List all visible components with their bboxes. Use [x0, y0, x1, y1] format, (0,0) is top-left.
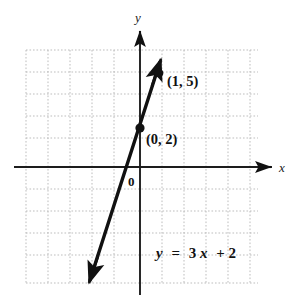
graph-figure: (1, 5) (0, 2) 0 y x y = 3 x + 2	[0, 0, 296, 301]
equation-equals: =	[171, 245, 180, 261]
point-label-1-5: (1, 5)	[167, 73, 199, 90]
data-point-0-2	[135, 123, 144, 132]
equation-label: y = 3 x + 2	[154, 245, 236, 261]
point-label-0-2: (0, 2)	[146, 131, 178, 148]
coordinate-plane-svg: (1, 5) (0, 2) 0 y x y = 3 x + 2	[0, 0, 296, 301]
data-point-1-5	[155, 69, 164, 78]
equation-coefficient: 3	[189, 245, 197, 261]
figure-background	[0, 0, 296, 301]
y-axis-label: y	[133, 10, 141, 25]
origin-label: 0	[128, 174, 135, 189]
equation-lhs: y	[154, 245, 163, 261]
equation-variable: x	[199, 245, 208, 261]
x-axis-label: x	[278, 160, 285, 175]
equation-constant: + 2	[216, 245, 236, 261]
